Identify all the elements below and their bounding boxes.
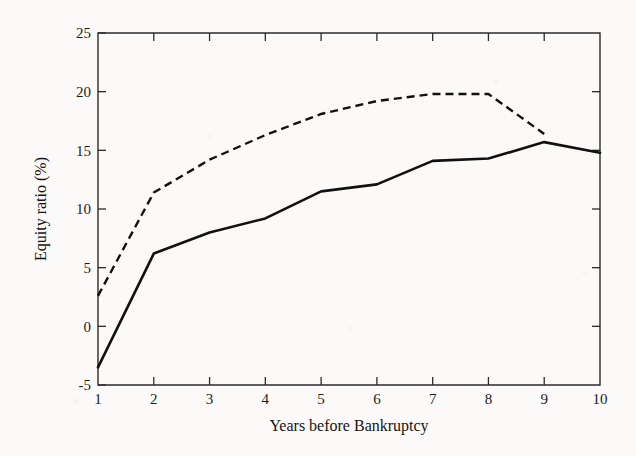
y-tick-label-6: 25 [76, 25, 91, 41]
x-tick-label-2: 2 [150, 391, 158, 407]
x-tick-label-7: 7 [429, 391, 437, 407]
x-axis-tick-labels: 1 2 3 4 5 6 7 8 9 10 [94, 391, 607, 407]
y-axis-tick-labels: -5 0 5 10 15 20 25 [76, 25, 91, 393]
x-tick-label-4: 4 [262, 391, 270, 407]
y-tick-label-3: 10 [76, 201, 91, 217]
y-axis-title: Equity ratio (%) [32, 157, 50, 261]
x-tick-label-1: 1 [94, 391, 102, 407]
y-axis-ticks [98, 33, 600, 385]
chart-figure: -5 0 5 10 15 20 25 [0, 0, 636, 456]
y-tick-label-1: 0 [84, 319, 92, 335]
dashed-series-line [98, 94, 544, 296]
y-tick-label-0: -5 [79, 377, 92, 393]
x-tick-label-9: 9 [540, 391, 548, 407]
axes-frame [98, 33, 600, 385]
y-tick-label-4: 15 [76, 143, 91, 159]
x-tick-label-8: 8 [485, 391, 493, 407]
solid-series-line [98, 142, 600, 367]
y-tick-label-2: 5 [84, 260, 92, 276]
x-axis-title: Years before Bankruptcy [269, 417, 428, 435]
line-chart-plot: -5 0 5 10 15 20 25 [0, 0, 636, 456]
x-axis-ticks [154, 33, 544, 385]
x-tick-label-6: 6 [373, 391, 381, 407]
x-tick-label-3: 3 [206, 391, 214, 407]
x-tick-label-5: 5 [317, 391, 325, 407]
x-tick-label-10: 10 [593, 391, 608, 407]
y-tick-label-5: 20 [76, 84, 91, 100]
